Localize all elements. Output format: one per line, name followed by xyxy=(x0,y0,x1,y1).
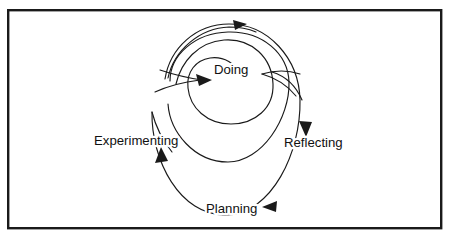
stage-label-doing[interactable]: Doing xyxy=(214,62,248,77)
stage-label-reflecting[interactable]: Reflecting xyxy=(284,135,343,150)
arrow-head-into-planning xyxy=(262,201,277,212)
spiral-chord-left-b xyxy=(155,80,200,92)
spiral-loop-middle xyxy=(168,32,289,162)
spiral-chord-right-b xyxy=(262,74,296,96)
diagram-figure: Doing Doing Reflecting Reflecting Planni… xyxy=(0,0,452,242)
spiral-right-tail xyxy=(272,72,302,100)
stage-label-experimenting[interactable]: Experimenting xyxy=(94,133,178,148)
figure-border xyxy=(8,10,441,228)
arrow-head-into-doing xyxy=(196,74,212,86)
stage-label-planning[interactable]: Planning xyxy=(206,201,257,216)
spiral-cycle-diagram: Doing Doing Reflecting Reflecting Planni… xyxy=(0,0,452,242)
